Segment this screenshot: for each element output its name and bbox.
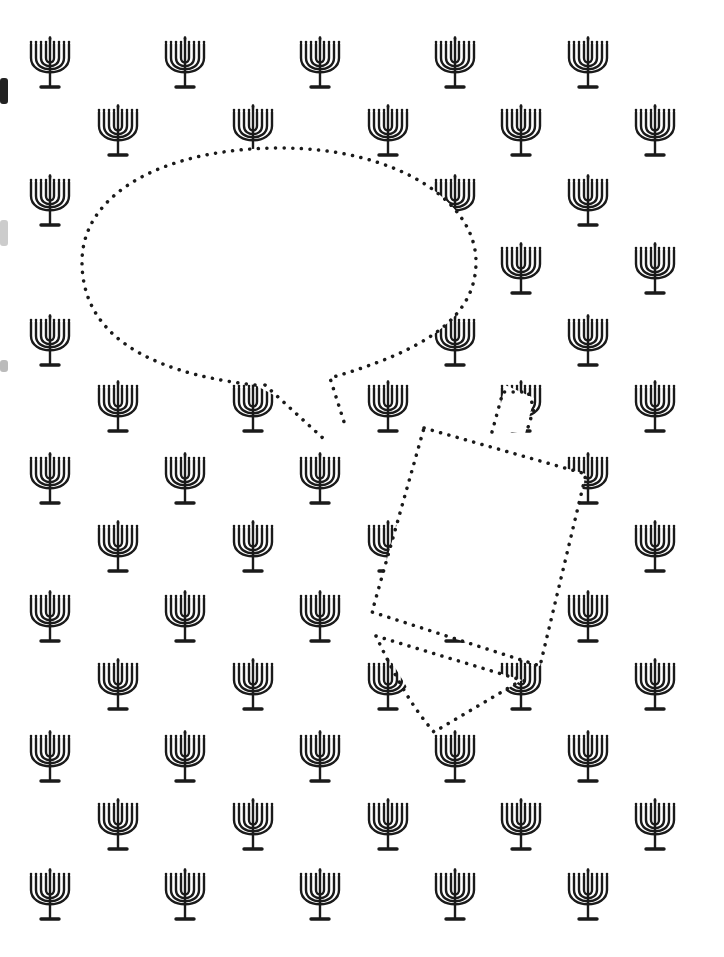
menorah-motif xyxy=(431,174,479,230)
menorah-icon xyxy=(94,380,142,436)
menorah-motif xyxy=(364,658,412,714)
menorah-icon xyxy=(364,380,412,436)
menorah-icon xyxy=(364,658,412,714)
menorah-icon xyxy=(94,658,142,714)
menorah-motif xyxy=(364,798,412,854)
menorah-motif xyxy=(564,868,612,924)
menorah-icon xyxy=(564,174,612,230)
menorah-icon xyxy=(431,314,479,370)
scan-artifact xyxy=(0,220,8,246)
menorah-motif xyxy=(229,380,277,436)
menorah-motif xyxy=(564,174,612,230)
menorah-motif xyxy=(497,520,545,576)
menorah-icon xyxy=(229,242,277,298)
menorah-motif xyxy=(26,314,74,370)
menorah-icon xyxy=(364,104,412,160)
menorah-icon xyxy=(364,798,412,854)
menorah-motif xyxy=(431,730,479,786)
menorah-icon xyxy=(364,520,412,576)
menorah-icon xyxy=(296,36,344,92)
menorah-motif xyxy=(296,174,344,230)
menorah-motif xyxy=(631,658,679,714)
scan-artifact xyxy=(0,360,8,372)
menorah-icon xyxy=(497,104,545,160)
menorah-motif xyxy=(296,590,344,646)
menorah-motif xyxy=(364,242,412,298)
menorah-icon xyxy=(564,868,612,924)
menorah-motif xyxy=(94,658,142,714)
menorah-motif xyxy=(564,314,612,370)
menorah-icon xyxy=(229,380,277,436)
menorah-motif xyxy=(296,36,344,92)
menorah-icon xyxy=(229,658,277,714)
menorah-motif xyxy=(161,452,209,508)
menorah-motif xyxy=(564,730,612,786)
menorah-icon xyxy=(26,174,74,230)
menorah-icon xyxy=(564,452,612,508)
menorah-motif xyxy=(229,520,277,576)
menorah-icon xyxy=(229,104,277,160)
menorah-motif xyxy=(497,658,545,714)
menorah-icon xyxy=(497,520,545,576)
menorah-motif xyxy=(94,798,142,854)
menorah-motif xyxy=(26,590,74,646)
menorah-icon xyxy=(296,590,344,646)
menorah-icon xyxy=(94,798,142,854)
menorah-icon xyxy=(94,520,142,576)
menorah-icon xyxy=(161,452,209,508)
menorah-motif xyxy=(94,520,142,576)
menorah-icon xyxy=(431,730,479,786)
menorah-motif xyxy=(161,36,209,92)
menorah-icon xyxy=(296,452,344,508)
menorah-motif xyxy=(364,380,412,436)
menorah-motif xyxy=(631,380,679,436)
menorah-motif xyxy=(631,242,679,298)
menorah-icon xyxy=(497,658,545,714)
menorah-motif xyxy=(564,590,612,646)
menorah-motif xyxy=(631,520,679,576)
menorah-motif xyxy=(296,868,344,924)
menorah-icon xyxy=(431,452,479,508)
menorah-icon xyxy=(161,868,209,924)
menorah-icon xyxy=(631,242,679,298)
menorah-motif xyxy=(26,868,74,924)
menorah-icon xyxy=(564,590,612,646)
menorah-motif xyxy=(161,868,209,924)
menorah-motif xyxy=(631,104,679,160)
menorah-motif xyxy=(431,590,479,646)
menorah-icon xyxy=(364,242,412,298)
menorah-motif xyxy=(431,36,479,92)
menorah-motif xyxy=(564,452,612,508)
menorah-motif xyxy=(431,452,479,508)
menorah-motif xyxy=(497,798,545,854)
menorah-motif xyxy=(296,452,344,508)
menorah-icon xyxy=(161,730,209,786)
menorah-motif xyxy=(431,868,479,924)
menorah-motif xyxy=(26,36,74,92)
menorah-motif xyxy=(364,104,412,160)
menorah-icon xyxy=(431,868,479,924)
menorah-motif xyxy=(497,104,545,160)
menorah-icon xyxy=(161,314,209,370)
menorah-icon xyxy=(497,798,545,854)
menorah-icon xyxy=(26,452,74,508)
menorah-icon xyxy=(26,868,74,924)
menorah-icon xyxy=(564,314,612,370)
menorah-motif xyxy=(229,104,277,160)
menorah-icon xyxy=(161,174,209,230)
menorah-icon xyxy=(564,730,612,786)
menorah-icon xyxy=(431,590,479,646)
menorah-motif xyxy=(497,380,545,436)
menorah-icon xyxy=(631,380,679,436)
menorah-icon xyxy=(94,242,142,298)
menorah-motif xyxy=(296,730,344,786)
menorah-icon xyxy=(26,36,74,92)
menorah-motif xyxy=(229,798,277,854)
menorah-icon xyxy=(431,174,479,230)
menorah-icon xyxy=(564,36,612,92)
menorah-motif xyxy=(94,380,142,436)
menorah-motif xyxy=(161,730,209,786)
menorah-icon xyxy=(296,174,344,230)
menorah-icon xyxy=(631,104,679,160)
menorah-icon xyxy=(161,36,209,92)
